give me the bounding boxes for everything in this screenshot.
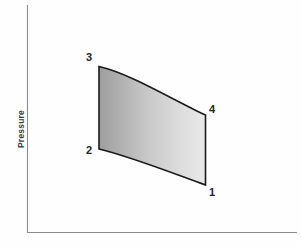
chart-canvas: 3 4 2 1 (0, 0, 301, 246)
cycle-fill-region (99, 67, 206, 186)
state-label-2: 2 (86, 144, 92, 156)
pressure-diagram: 3 4 2 1 Pressure (0, 0, 301, 246)
state-label-4: 4 (209, 103, 216, 115)
state-label-3: 3 (86, 51, 92, 63)
y-axis-label: Pressure (16, 110, 26, 148)
state-label-1: 1 (209, 186, 215, 198)
